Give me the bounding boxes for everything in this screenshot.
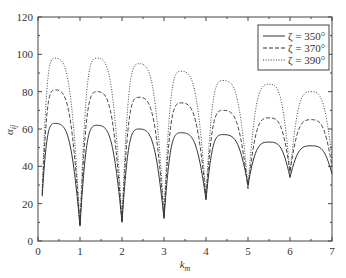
x-tick-label: 1 bbox=[77, 245, 83, 257]
x-tick-label: 3 bbox=[161, 245, 167, 257]
series-layer bbox=[42, 58, 332, 226]
y-tick-label: 20 bbox=[22, 198, 34, 210]
x-tick-label: 7 bbox=[329, 245, 335, 257]
series-line-1 bbox=[42, 123, 332, 226]
y-tick-label: 80 bbox=[22, 86, 34, 98]
legend: ζ = 350°ζ = 370°ζ = 390° bbox=[258, 25, 329, 70]
x-tick-label: 0 bbox=[35, 245, 41, 257]
x-tick-label: 5 bbox=[245, 245, 251, 257]
legend-item-label: ζ = 390° bbox=[288, 54, 325, 67]
x-tick-label: 6 bbox=[287, 245, 293, 257]
y-tick-label: 120 bbox=[17, 11, 34, 23]
x-tick-label: 4 bbox=[203, 245, 209, 257]
y-tick-label: 0 bbox=[28, 235, 34, 247]
x-tick-label: 2 bbox=[119, 245, 125, 257]
series-line-3 bbox=[42, 58, 332, 224]
y-axis-label: αij bbox=[3, 124, 18, 135]
y-tick-label: 100 bbox=[17, 48, 34, 60]
x-axis-label: km bbox=[180, 258, 191, 273]
y-tick-label: 60 bbox=[22, 123, 34, 135]
y-tick-label: 40 bbox=[22, 160, 34, 172]
line-chart: 01234567020406080100120 ζ = 350°ζ = 370°… bbox=[0, 0, 346, 278]
